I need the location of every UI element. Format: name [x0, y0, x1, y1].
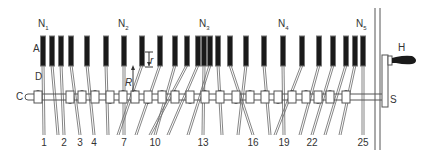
cam: [314, 91, 322, 103]
group-label-n5: N5: [356, 18, 367, 31]
key-bar: [50, 36, 55, 66]
key-bar: [173, 36, 178, 66]
cam: [342, 91, 350, 103]
cam: [144, 91, 152, 103]
cam: [78, 91, 86, 103]
cam: [201, 91, 209, 103]
rod-number: 10: [149, 137, 161, 148]
label-R: R: [125, 77, 132, 88]
key-bar: [300, 36, 305, 66]
rod-number: 4: [91, 137, 97, 148]
cam: [119, 91, 127, 103]
rod-number: 25: [357, 137, 369, 148]
key-bar: [244, 36, 249, 66]
cam-mechanism-diagram: A D C R r H S N1N2N3N4N5 123471013161922…: [0, 0, 431, 154]
rod-number: 3: [77, 137, 83, 148]
rod-number: 1: [41, 137, 47, 148]
group-label-n2: N2: [118, 18, 129, 31]
cam: [66, 91, 74, 103]
cam: [288, 91, 296, 103]
key-bar: [202, 36, 207, 66]
crank-hub: [388, 56, 392, 65]
key-bar: [69, 36, 74, 66]
key-bar: [104, 36, 109, 66]
key-bar: [208, 36, 213, 66]
label-C: C: [16, 91, 23, 102]
rod-number: 13: [197, 137, 209, 148]
group-label-n1: N1: [38, 18, 49, 31]
key-bar: [158, 36, 163, 66]
cam: [261, 91, 269, 103]
crank-plate: [382, 55, 388, 107]
label-H: H: [398, 42, 405, 53]
rod-number: 7: [121, 137, 127, 148]
cams: [34, 90, 350, 103]
label-A: A: [33, 43, 40, 54]
group-label-n3: N3: [199, 18, 210, 31]
cam: [216, 91, 224, 103]
key-bar: [85, 36, 90, 66]
key-bars: [41, 36, 366, 66]
label-S: S: [390, 94, 397, 105]
cam: [34, 91, 42, 103]
key-bar: [281, 36, 286, 66]
key-bar: [185, 36, 190, 66]
key-bar: [317, 36, 322, 66]
rod-number: 22: [306, 137, 318, 148]
key-bar: [140, 36, 145, 66]
key-bar: [122, 36, 127, 66]
arrow-R-head: [131, 65, 135, 70]
key-bar: [361, 36, 366, 66]
rod-number: 19: [278, 137, 290, 148]
group-label-n4: N4: [278, 18, 289, 31]
cam: [106, 91, 114, 103]
rod-number: 2: [61, 137, 67, 148]
rod-numbers: 12347101316192225: [41, 137, 369, 148]
cam: [326, 91, 334, 103]
key-bar: [196, 36, 201, 66]
group-labels: N1N2N3N4N5: [38, 18, 367, 31]
key-bar: [41, 36, 46, 66]
key-bar: [228, 36, 233, 66]
rod-number: 16: [247, 137, 259, 148]
key-bar: [262, 36, 267, 66]
key-bar: [331, 36, 336, 66]
key-bar: [216, 36, 221, 66]
key-bar: [353, 36, 358, 66]
key-bar: [344, 36, 349, 66]
cam: [232, 91, 240, 103]
handle-icon[interactable]: [392, 56, 416, 65]
cam: [246, 91, 254, 103]
cam: [171, 91, 179, 103]
label-D: D: [35, 71, 42, 82]
cam: [302, 91, 310, 103]
label-r: r: [150, 55, 154, 66]
cam: [91, 91, 99, 103]
cam: [158, 91, 166, 103]
shaft-end-cap: [25, 94, 28, 100]
cam: [131, 91, 139, 103]
key-bar: [59, 36, 64, 66]
cam: [186, 91, 194, 103]
cam: [274, 91, 282, 103]
